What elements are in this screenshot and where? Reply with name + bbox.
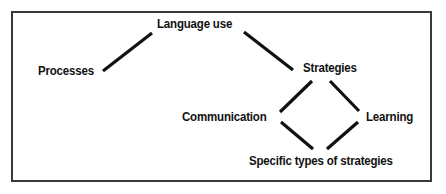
- node-specific-types: Specific types of strategies: [249, 155, 393, 168]
- diagram-canvas: Language use Processes Strategies Commun…: [0, 0, 446, 194]
- edge-communication-specific-types: [281, 122, 313, 149]
- node-language-use: Language use: [157, 18, 232, 31]
- node-communication: Communication: [182, 111, 267, 124]
- edge-language-use-strategies: [244, 32, 293, 70]
- edge-processes-language-use: [103, 33, 152, 71]
- edge-strategies-communication: [280, 81, 312, 112]
- edge-strategies-learning: [330, 81, 359, 111]
- node-processes: Processes: [38, 65, 94, 78]
- node-strategies: Strategies: [303, 62, 357, 75]
- edge-learning-specific-types: [327, 122, 358, 149]
- node-learning: Learning: [366, 111, 413, 124]
